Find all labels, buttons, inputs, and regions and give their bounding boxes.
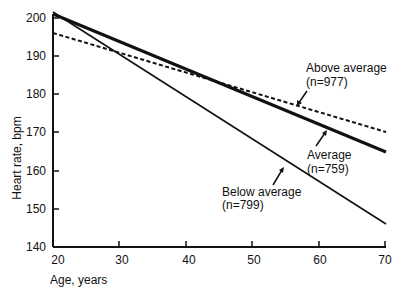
- svg-text:(n=977): (n=977): [306, 75, 348, 89]
- y-axis-label: Heart rate, bpm: [10, 116, 24, 199]
- y-tick-label: 170: [26, 125, 46, 139]
- arrow-icon: [316, 133, 325, 146]
- x-tick-label: 50: [247, 253, 261, 267]
- svg-text:Below average: Below average: [222, 185, 302, 199]
- y-tick-label: 160: [26, 164, 46, 178]
- y-tick-label: 180: [26, 87, 46, 101]
- y-tick-label: 200: [26, 11, 46, 25]
- svg-text:(n=759): (n=759): [307, 162, 349, 176]
- annotation-below-average: Below average (n=799): [222, 167, 302, 212]
- heart-rate-chart: 200 190 180 170 160 150 140 20 30 40 50 …: [0, 0, 401, 297]
- x-tick-label: 40: [182, 253, 196, 267]
- y-tick-label: 190: [26, 49, 46, 63]
- y-tick-label: 140: [26, 240, 46, 254]
- arrow-icon: [273, 170, 282, 185]
- y-tick-label: 150: [26, 202, 46, 216]
- annotation-average: Average (n=759): [307, 130, 352, 176]
- x-tick-labels: 20 30 40 50 60 70: [51, 253, 392, 267]
- x-tick-label: 20: [51, 253, 65, 267]
- y-tick-labels: 200 190 180 170 160 150 140: [26, 11, 46, 254]
- x-tick-label: 70: [378, 253, 392, 267]
- svg-text:Average: Average: [307, 148, 352, 162]
- svg-text:Above average: Above average: [306, 61, 387, 75]
- x-tick-label: 30: [115, 253, 129, 267]
- svg-text:(n=799): (n=799): [222, 198, 264, 212]
- annotation-above-average: Above average (n=977): [297, 61, 387, 106]
- x-axis-label: Age, years: [50, 273, 107, 287]
- x-tick-label: 60: [313, 253, 327, 267]
